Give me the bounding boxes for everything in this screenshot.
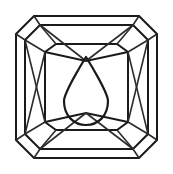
diagram-canvas	[0, 0, 173, 174]
gemstone-diagram	[0, 0, 173, 174]
